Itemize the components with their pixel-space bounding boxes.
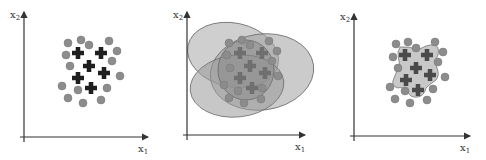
negative-sample-icon <box>406 99 414 107</box>
negative-sample-icon <box>394 64 402 72</box>
panel-2: x1x2 <box>173 9 319 154</box>
negative-sample-icon <box>116 72 124 80</box>
negative-sample-icon <box>240 99 248 107</box>
negative-sample-icon <box>58 82 66 90</box>
y-axis-label: x2 <box>10 9 20 22</box>
negative-sample-icon <box>105 37 113 45</box>
classification-diagram: x1x2x1x2x1x2 <box>0 0 486 160</box>
negative-sample-icon <box>273 47 281 55</box>
positive-sample-icon <box>85 82 97 94</box>
negative-sample-icon <box>439 48 447 56</box>
negative-sample-icon <box>77 36 85 44</box>
negative-sample-icon <box>434 58 442 66</box>
negative-sample-icon <box>66 62 74 70</box>
negative-sample-icon <box>238 36 246 44</box>
negative-sample-icon <box>423 96 431 104</box>
negative-sample-icon <box>64 39 72 47</box>
negative-sample-icon <box>220 81 228 89</box>
x-axis-label: x1 <box>460 142 470 155</box>
negative-sample-icon <box>64 94 72 102</box>
negative-sample-icon <box>79 99 87 107</box>
positive-sample-icon <box>98 67 110 79</box>
y-axis-label: x2 <box>173 9 183 22</box>
negative-sample-icon <box>97 96 105 104</box>
negative-sample-icon <box>258 84 266 92</box>
negative-sample-icon <box>441 73 449 81</box>
x-axis-label: x1 <box>295 141 305 154</box>
negative-sample-icon <box>391 95 399 103</box>
negative-sample-icon <box>412 44 420 52</box>
negative-sample-icon <box>113 47 121 55</box>
panel-1: x1x2 <box>10 9 148 156</box>
negative-sample-icon <box>401 87 409 95</box>
negative-sample-icon <box>274 72 282 80</box>
negative-sample-icon <box>429 85 437 93</box>
y-axis-label: x2 <box>340 11 350 24</box>
negative-sample-icon <box>223 51 231 59</box>
negative-sample-icon <box>386 83 394 91</box>
negative-sample-icon <box>268 57 276 65</box>
positive-sample-icon <box>95 47 107 59</box>
negative-sample-icon <box>431 38 439 46</box>
negative-sample-icon <box>389 53 397 61</box>
negative-sample-icon <box>265 37 273 45</box>
negative-sample-icon <box>226 64 234 72</box>
negative-sample-icon <box>62 51 70 59</box>
negative-sample-icon <box>257 95 265 103</box>
negative-sample-icon <box>85 41 93 49</box>
negative-sample-icon <box>392 40 400 48</box>
negative-sample-icon <box>103 84 111 92</box>
positive-sample-icon <box>83 60 95 72</box>
panel-3: x1x2 <box>340 11 470 155</box>
negative-sample-icon <box>225 39 233 47</box>
negative-sample-icon <box>234 87 242 95</box>
positive-sample-icon <box>72 47 84 59</box>
negative-sample-icon <box>108 57 116 65</box>
negative-sample-icon <box>404 38 412 46</box>
negative-sample-icon <box>246 41 254 49</box>
positive-sample-icon <box>72 72 84 84</box>
x-axis-label: x1 <box>138 143 148 156</box>
negative-sample-icon <box>74 86 82 94</box>
negative-sample-icon <box>225 94 233 102</box>
